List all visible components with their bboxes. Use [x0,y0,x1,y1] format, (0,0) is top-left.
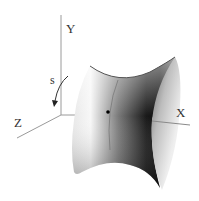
z-axis-label: Z [14,115,22,130]
surface-diagram: Y Z X s [0,0,199,201]
marked-point [106,110,110,114]
z-axis [17,115,61,138]
y-axis-label: Y [66,21,76,36]
x-axis-label: X [176,105,186,120]
saddle-surface [72,57,180,190]
parameter-label: s [50,73,55,87]
arrowhead-icon [52,100,58,107]
